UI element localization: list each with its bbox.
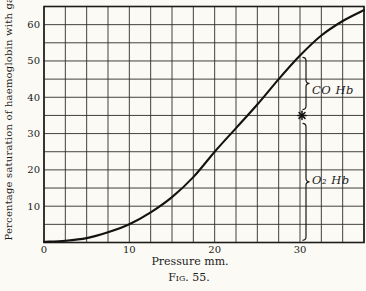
x-tick-label: 30 <box>294 244 307 255</box>
saturation-curve <box>44 10 364 242</box>
brace-o2-hb <box>303 123 310 240</box>
y-tick-label: 50 <box>27 55 40 66</box>
y-axis-title: Percentage saturation of haemoglobin wit… <box>3 7 18 241</box>
x-axis-title: Pressure mm. <box>110 255 270 268</box>
y-tick-label: 20 <box>27 164 40 175</box>
x-tick-label: 0 <box>41 244 47 255</box>
y-tick-label: 10 <box>27 201 40 212</box>
brace-co-hb <box>303 57 310 109</box>
y-tick-label: 60 <box>27 19 40 30</box>
y-tick-label: 40 <box>27 92 40 103</box>
y-tick-label: 30 <box>27 128 40 139</box>
x-tick-label: 20 <box>208 244 221 255</box>
chart-canvas: 0102030102030405060 <box>0 0 366 291</box>
plot-border <box>44 7 364 243</box>
annotation-co-hb: CO Hb <box>312 83 354 97</box>
annotation-o2-hb: O₂ Hb <box>312 173 350 187</box>
x-tick-label: 10 <box>123 244 136 255</box>
figure-55: 0102030102030405060 Percentage saturatio… <box>0 0 366 291</box>
figure-caption: Fig. 55. <box>139 271 239 284</box>
